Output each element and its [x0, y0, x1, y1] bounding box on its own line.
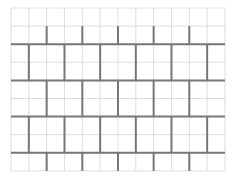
brick-grid-diagram — [0, 0, 245, 186]
